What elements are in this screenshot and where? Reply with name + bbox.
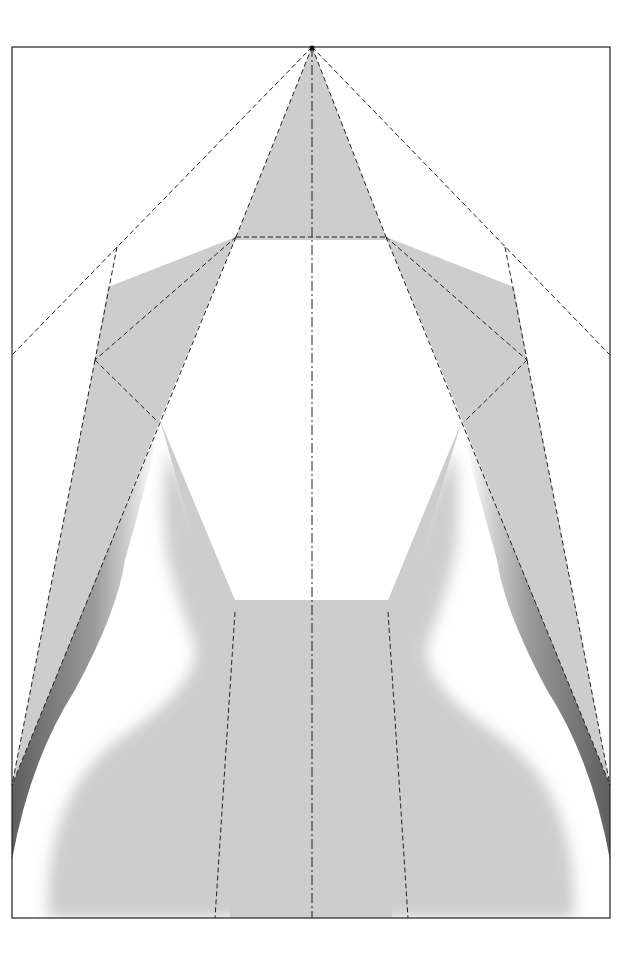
diagram-canvas xyxy=(0,0,630,955)
fold-diagram xyxy=(0,0,630,955)
apex-point xyxy=(310,46,315,51)
apex-flap xyxy=(232,47,390,242)
